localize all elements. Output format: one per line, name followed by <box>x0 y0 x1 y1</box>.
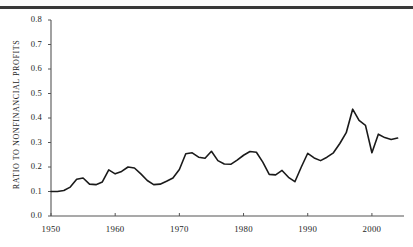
y-tick-label: 0.6 <box>18 63 42 73</box>
y-tick-label: 0.4 <box>18 112 42 122</box>
x-tick-label: 1950 <box>31 224 71 234</box>
line-chart-plot <box>0 0 413 247</box>
y-tick-label: 0.1 <box>18 186 42 196</box>
y-tick-label: 0.2 <box>18 161 42 171</box>
x-tick-label: 2000 <box>352 224 392 234</box>
x-tick-label: 1960 <box>95 224 135 234</box>
y-tick-label: 0.3 <box>18 137 42 147</box>
y-tick-label: 0.8 <box>18 14 42 24</box>
y-tick-label: 0.7 <box>18 39 42 49</box>
y-tick-label: 0.5 <box>18 88 42 98</box>
x-tick-label: 1980 <box>224 224 264 234</box>
y-tick-label: 0.0 <box>18 210 42 220</box>
data-series-line <box>51 109 398 191</box>
chart-figure: RATIO TO NONFINANCIAL PROFITS 0.00.10.20… <box>0 0 413 247</box>
x-tick-label: 1970 <box>159 224 199 234</box>
x-tick-label: 1990 <box>288 224 328 234</box>
